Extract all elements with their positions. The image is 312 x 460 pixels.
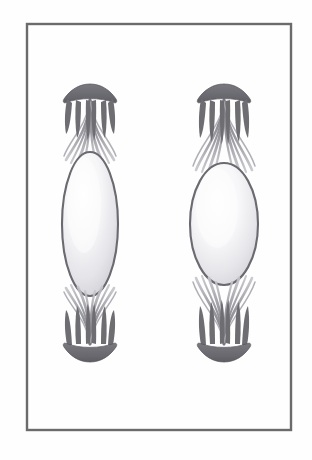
spindle-right-ellipse-inner-sheen — [196, 168, 238, 248]
spindle-right — [190, 84, 258, 362]
paper-background — [0, 0, 312, 460]
figure-root: Two mitotic spindle apparatus diagrams — [0, 0, 312, 460]
spindle-diagram-canvas — [0, 0, 312, 460]
spindle-left-ellipse-inner-sheen — [67, 157, 101, 253]
